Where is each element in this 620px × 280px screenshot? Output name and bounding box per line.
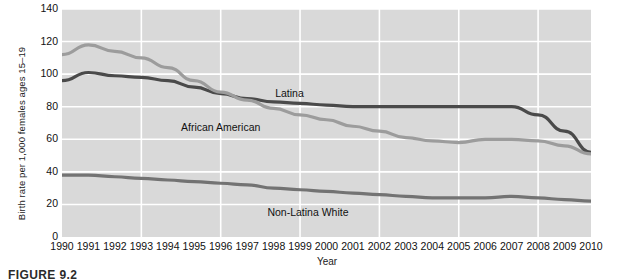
y-axis-tick-label: 80 xyxy=(32,101,58,112)
y-axis-title: Birth rate per 1,000 females ages 15–19 xyxy=(16,19,27,249)
x-axis-tick-label: 1998 xyxy=(262,240,285,252)
plot-area xyxy=(62,9,591,237)
x-axis-tick-label: 1991 xyxy=(77,240,100,252)
x-axis-tick-label: 2007 xyxy=(500,240,523,252)
series-label-latina: Latina xyxy=(275,87,304,99)
x-axis-tick-label: 1996 xyxy=(209,240,232,252)
x-axis-tick-label: 1994 xyxy=(156,240,179,252)
x-axis-tick-label: 1993 xyxy=(130,240,153,252)
x-axis-tick-label: 2006 xyxy=(474,240,497,252)
x-axis-tick-label: 2001 xyxy=(341,240,364,252)
y-axis-tick-label: 120 xyxy=(32,36,58,47)
x-axis-tick-label: 1992 xyxy=(103,240,126,252)
x-axis-tick-label: 1995 xyxy=(183,240,206,252)
x-axis-tick-labels: 1990199119921993199419951996199719981999… xyxy=(62,240,592,256)
y-axis-tick-label: 20 xyxy=(32,198,58,209)
x-axis-tick-label: 2000 xyxy=(315,240,338,252)
figure-birth-rate-chart: Birth rate per 1,000 females ages 15–19 … xyxy=(0,0,620,280)
y-axis-tick-label: 100 xyxy=(32,68,58,79)
series-label-non-latina-white: Non-Latina White xyxy=(267,206,348,218)
y-axis-tick-label: 40 xyxy=(32,166,58,177)
x-axis-tick-label: 1990 xyxy=(50,240,73,252)
y-axis-tick-labels: 140120100806040200 xyxy=(30,0,58,280)
x-axis-tick-label: 2004 xyxy=(421,240,444,252)
y-axis-tick-label: 140 xyxy=(32,3,58,14)
x-axis-tick-label: 2010 xyxy=(579,240,602,252)
figure-caption: FIGURE 9.2 xyxy=(8,268,77,280)
chart-svg xyxy=(62,9,591,237)
x-axis-title: Year xyxy=(62,256,592,267)
x-axis-tick-label: 2002 xyxy=(368,240,391,252)
x-axis-tick-label: 1999 xyxy=(288,240,311,252)
x-axis-tick-label: 2003 xyxy=(394,240,417,252)
x-axis-tick-label: 2008 xyxy=(526,240,549,252)
x-axis-tick-label: 2009 xyxy=(553,240,576,252)
x-axis-tick-label: 2005 xyxy=(447,240,470,252)
series-label-african-american: African American xyxy=(181,121,260,133)
y-axis-tick-label: 60 xyxy=(32,133,58,144)
x-axis-tick-label: 1997 xyxy=(235,240,258,252)
